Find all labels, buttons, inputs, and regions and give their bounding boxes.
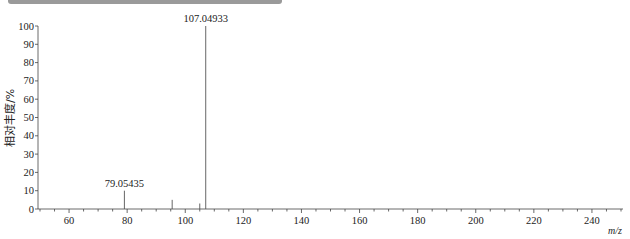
x-tick-label: 140 — [294, 215, 310, 226]
y-tick-label: 40 — [24, 130, 35, 141]
x-axis-label: m/z — [608, 225, 622, 236]
x-tick-label: 60 — [64, 215, 75, 226]
y-tick-label: 50 — [24, 112, 35, 123]
y-tick-label: 10 — [24, 185, 35, 196]
x-tick-label: 120 — [235, 215, 251, 226]
y-tick-label: 20 — [24, 167, 35, 178]
x-tick-label: 240 — [584, 215, 600, 226]
x-tick-label: 160 — [352, 215, 368, 226]
y-axis-label: 相对丰度/% — [3, 89, 17, 147]
mass-spectrum-chart: 0102030405060708090100608010012014016018… — [0, 0, 630, 239]
x-tick-label: 80 — [122, 215, 133, 226]
y-tick-label: 70 — [24, 75, 35, 86]
x-tick-label: 200 — [468, 215, 484, 226]
axes: 0102030405060708090100608010012014016018… — [18, 21, 623, 227]
x-tick-label: 100 — [177, 215, 193, 226]
peak-label: 107.04933 — [183, 13, 228, 24]
y-tick-label: 80 — [24, 57, 35, 68]
x-tick-label: 180 — [410, 215, 426, 226]
peak-label: 79.05435 — [105, 178, 144, 189]
y-tick-label: 60 — [24, 94, 35, 105]
y-tick-label: 100 — [18, 21, 34, 32]
peaks: 79.05435107.04933 — [105, 13, 228, 209]
y-tick-label: 30 — [24, 149, 35, 160]
y-tick-label: 0 — [29, 204, 34, 215]
x-tick-label: 220 — [526, 215, 542, 226]
y-tick-label: 90 — [24, 39, 35, 50]
